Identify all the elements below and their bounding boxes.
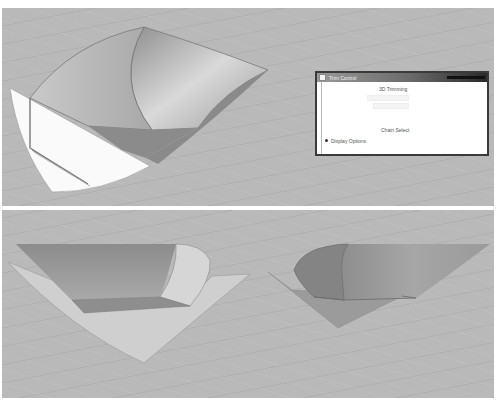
viewport-top[interactable]: Trim Control 3D Trimming Chain Select Di… <box>2 8 494 206</box>
trim-control-dialog[interactable]: Trim Control 3D Trimming Chain Select Di… <box>315 71 489 156</box>
section-label-chain-select: Chain Select <box>381 127 409 133</box>
dialog-titlebar-controls[interactable] <box>447 76 485 79</box>
section-heading-3d-trimming: 3D Trimming <box>379 86 407 92</box>
disabled-control-2 <box>373 103 409 109</box>
dialog-title: Trim Control <box>329 75 356 81</box>
display-options-radio[interactable] <box>325 139 328 142</box>
dialog-titlebar[interactable]: Trim Control <box>317 73 487 82</box>
dialog-app-icon <box>319 74 326 81</box>
viewport-bottom[interactable] <box>2 210 494 398</box>
surface-model-bottom <box>2 210 494 398</box>
dialog-side-strip <box>319 82 322 154</box>
display-options-label: Display Options <box>331 138 366 144</box>
disabled-control-1 <box>367 95 409 101</box>
